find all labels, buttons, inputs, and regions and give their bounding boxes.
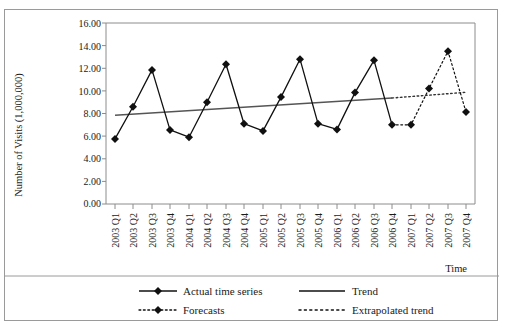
legend-item-forecasts: Forecasts [139, 304, 225, 316]
y-axis [102, 23, 106, 204]
y-tick-label: 16.00 [79, 18, 102, 29]
y-tick-label: 4.00 [84, 153, 102, 164]
x-tick-label: 2004 Q4 [239, 213, 250, 248]
x-tick-label: 2006 Q4 [387, 213, 398, 248]
visits-time-series-chart: Number of Visits (1,000,000) 16.00 14.00… [5, 10, 499, 322]
legend-item-actual-time-series: Actual time series [139, 285, 262, 297]
legend-diamond-marker-icon [154, 287, 162, 295]
x-tick-label: 2004 Q3 [221, 213, 232, 248]
x-tick-label: 2003 Q3 [147, 213, 158, 248]
forecast-series-markers [407, 47, 470, 129]
x-tick-label: 2007 Q4 [461, 213, 472, 248]
x-tick-label: 2006 Q3 [369, 213, 380, 248]
legend-label: Extrapolated trend [352, 304, 434, 316]
x-axis-ticks [115, 204, 466, 209]
legend-item-trend: Trend [299, 285, 378, 297]
legend-diamond-marker-icon [154, 306, 162, 314]
y-axis-tick-labels: 16.00 14.00 12.00 10.00 8.00 6.00 4.00 2… [79, 18, 102, 209]
legend-label: Trend [352, 285, 378, 297]
figure-frame: Number of Visits (1,000,000) 16.00 14.00… [4, 9, 498, 321]
legend-label: Forecasts [183, 304, 225, 316]
x-tick-label: 2005 Q4 [313, 213, 324, 248]
x-tick-label: 2003 Q1 [110, 213, 121, 248]
legend-label: Actual time series [183, 285, 262, 297]
x-tick-label: 2006 Q2 [350, 213, 361, 248]
x-tick-label: 2007 Q1 [406, 213, 417, 248]
x-tick-label: 2006 Q1 [332, 213, 343, 248]
legend-item-extrapolated-trend: Extrapolated trend [299, 304, 434, 316]
y-tick-label: 12.00 [79, 63, 102, 74]
y-tick-label: 0.00 [84, 198, 102, 209]
y-tick-label: 8.00 [84, 108, 102, 119]
x-tick-label: 2003 Q2 [128, 213, 139, 248]
x-tick-label: 2005 Q3 [295, 213, 306, 248]
x-axis-tick-labels: 2003 Q1 2003 Q2 2003 Q3 2003 Q4 2004 Q1 … [110, 213, 472, 248]
x-tick-label: 2007 Q3 [443, 213, 454, 248]
x-tick-label: 2004 Q2 [202, 213, 213, 248]
y-tick-label: 10.00 [79, 86, 102, 97]
actual-series-markers [111, 55, 396, 143]
chart-container: Number of Visits (1,000,000) 16.00 14.00… [5, 10, 499, 322]
x-tick-label: 2007 Q2 [424, 213, 435, 248]
extrapolated-trend-line [392, 92, 466, 98]
x-tick-label: 2005 Q2 [276, 213, 287, 248]
chart-legend: Actual time series Trend Forecasts Extra… [139, 285, 434, 316]
x-tick-label: 2005 Q1 [258, 213, 269, 248]
x-axis-title: Time [445, 263, 467, 274]
y-tick-label: 14.00 [79, 41, 102, 52]
actual-time-series-line [115, 59, 392, 139]
x-tick-label: 2004 Q1 [184, 213, 195, 248]
x-tick-label: 2003 Q4 [165, 213, 176, 248]
y-tick-label: 6.00 [84, 131, 102, 142]
y-tick-label: 2.00 [84, 176, 102, 187]
y-axis-title: Number of Visits (1,000,000) [13, 73, 25, 197]
plot-area-border [106, 23, 475, 204]
